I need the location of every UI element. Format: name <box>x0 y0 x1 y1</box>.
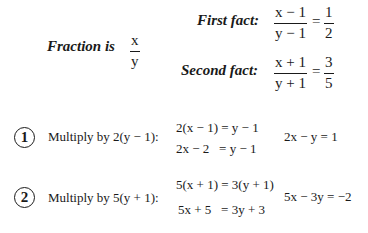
first-fact-rhs-fraction: 1 2 <box>324 4 334 42</box>
fraction-x-over-y: x y <box>130 32 140 70</box>
fraction-numerator: x <box>130 32 140 49</box>
second-fact-rhs-fraction: 3 5 <box>324 54 334 92</box>
first-fact-label: First fact: <box>197 12 259 29</box>
first-fact-equals: = <box>312 13 320 30</box>
first-fact-numerator: x − 1 <box>274 4 307 21</box>
step-2-equation-line-2: 5x + 5 = 3y + 3 <box>178 202 265 218</box>
step-1-number-circle: 1 <box>14 127 35 148</box>
second-fact-denominator: y + 1 <box>274 75 307 92</box>
first-fact-rhs-denominator: 2 <box>324 25 334 42</box>
step-2-number-circle: 2 <box>14 187 35 208</box>
second-fact-rhs-numerator: 3 <box>324 54 334 71</box>
step-2-instruction: Multiply by 5(y + 1): <box>48 190 159 206</box>
second-fact-label: Second fact: <box>181 62 258 79</box>
step-2-equation-line-1: 5(x + 1) = 3(y + 1) <box>176 177 274 193</box>
fraction-bar <box>324 73 334 74</box>
step-2-result: 5x − 3y = −2 <box>284 189 352 205</box>
first-fact-rhs-numerator: 1 <box>324 4 334 21</box>
fraction-bar <box>274 73 307 74</box>
step-1-instruction: Multiply by 2(y − 1): <box>48 129 159 145</box>
second-fact-lhs-fraction: x + 1 y + 1 <box>274 54 307 92</box>
step-1-equation-line-2: 2x − 2 = y − 1 <box>176 141 257 157</box>
step-1-equation-line-1: 2(x − 1) = y − 1 <box>176 120 259 136</box>
second-fact-rhs-denominator: 5 <box>324 75 334 92</box>
fraction-definition-label: Fraction is <box>47 38 115 55</box>
first-fact-lhs-fraction: x − 1 y − 1 <box>274 4 307 42</box>
first-fact-denominator: y − 1 <box>274 25 307 42</box>
fraction-bar <box>130 51 140 52</box>
fraction-denominator: y <box>130 53 140 70</box>
fraction-bar <box>274 23 307 24</box>
second-fact-equals: = <box>312 63 320 80</box>
second-fact-numerator: x + 1 <box>274 54 307 71</box>
step-1-result: 2x − y = 1 <box>284 129 338 145</box>
fraction-bar <box>324 23 334 24</box>
